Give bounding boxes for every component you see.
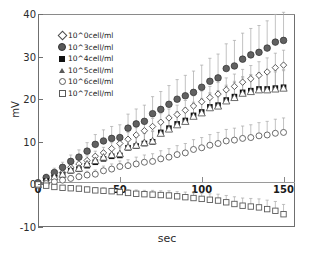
legend-marker-circle-filled-icon	[56, 43, 68, 51]
x-tick-label: 100	[191, 184, 212, 195]
legend-marker-triangle-open-icon	[56, 68, 68, 73]
x-tick-mark	[202, 177, 203, 182]
y-tick-label: 0	[6, 179, 36, 190]
x-tick-label: 50	[113, 184, 127, 195]
legend-item-label: 10^6cell/ml	[68, 77, 113, 86]
y-tick-mark	[38, 14, 43, 15]
legend-marker-square-open-icon	[56, 90, 68, 97]
legend-item-label: 10^7cell/ml	[68, 89, 113, 98]
legend-marker-circle-open-icon	[56, 78, 68, 85]
legend-item-label: 10^4cell/ml	[68, 54, 113, 63]
y-tick-label: -10	[6, 222, 36, 233]
zero-reference-line	[38, 182, 295, 183]
legend-item[interactable]: 10^4cell/ml	[56, 53, 146, 65]
plot-top-border	[38, 14, 295, 15]
x-tick-label: 150	[273, 184, 294, 195]
y-tick-label: 30	[6, 51, 36, 62]
legend-item-label: 10^3cell/ml	[68, 43, 113, 52]
x-tick-mark	[120, 177, 121, 182]
chart-figure: mV 403020100-10 050100150 10^0cell/ml10^…	[0, 0, 311, 256]
x-tick-mark	[284, 177, 285, 182]
x-axis-title: sec	[38, 232, 296, 245]
y-tick-mark	[38, 99, 43, 100]
y-axis-ticks: 403020100-10	[0, 0, 36, 256]
y-tick-mark	[38, 57, 43, 58]
legend-item[interactable]: 10^5cell/ml	[56, 65, 146, 77]
legend-item-label: 10^0cell/ml	[68, 31, 113, 40]
legend-item[interactable]: 10^7cell/ml	[56, 88, 146, 100]
legend-item[interactable]: 10^3cell/ml	[56, 42, 146, 54]
legend-item[interactable]: 10^6cell/ml	[56, 76, 146, 88]
y-tick-mark	[38, 184, 43, 185]
y-tick-mark	[38, 142, 43, 143]
y-tick-label: 20	[6, 94, 36, 105]
legend-item-label: 10^5cell/ml	[68, 66, 113, 75]
y-tick-mark	[38, 227, 43, 228]
legend-marker-square-filled-icon	[56, 56, 68, 62]
y-tick-label: 10	[6, 136, 36, 147]
legend-item[interactable]: 10^0cell/ml	[56, 30, 146, 42]
x-tick-label: 0	[35, 184, 42, 195]
legend-marker-diamond-open-icon	[56, 32, 68, 39]
legend: 10^0cell/ml10^3cell/ml10^4cell/ml10^5cel…	[56, 30, 146, 99]
y-tick-label: 40	[6, 9, 36, 20]
